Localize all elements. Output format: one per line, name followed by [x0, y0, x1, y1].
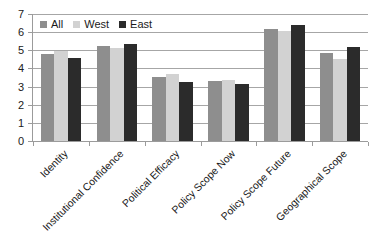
bar — [166, 74, 180, 141]
bar — [208, 81, 222, 141]
y-axis-tick-label: 5 — [18, 45, 24, 56]
y-axis-tick-label: 7 — [18, 9, 24, 20]
bar — [291, 25, 305, 141]
bar — [347, 47, 361, 141]
y-axis-tick-label: 0 — [18, 136, 24, 147]
plot-area — [33, 14, 368, 141]
bar — [97, 46, 111, 141]
y-axis-tick-label: 3 — [18, 82, 24, 93]
legend-item-east[interactable]: East — [119, 19, 152, 30]
bar — [54, 51, 68, 141]
legend-item-label: East — [130, 19, 152, 30]
legend-item-label: All — [51, 19, 63, 30]
legend-item-label: West — [84, 19, 109, 30]
bar — [68, 58, 82, 141]
bar — [278, 31, 292, 141]
bar — [124, 44, 138, 141]
bar-group — [41, 14, 82, 141]
bar — [333, 59, 347, 141]
legend-swatch-icon — [73, 21, 80, 28]
x-axis-tick-mark — [368, 142, 369, 146]
grouped-bar-chart: 01234567 IdentityInstitutional Confidenc… — [0, 0, 376, 239]
y-axis-tick-label: 4 — [18, 63, 24, 74]
y-axis-tick-label: 6 — [18, 27, 24, 38]
x-axis-tick-mark — [201, 142, 202, 146]
gridline — [33, 32, 368, 33]
chart-legend: AllWestEast — [38, 18, 156, 31]
bar — [264, 29, 278, 141]
bar — [41, 54, 55, 141]
gridline — [33, 68, 368, 69]
y-axis-tick-label: 2 — [18, 100, 24, 111]
bar-group — [320, 14, 361, 141]
gridline — [33, 14, 368, 15]
gridline — [33, 123, 368, 124]
bar — [235, 84, 249, 141]
bar — [179, 82, 193, 141]
gridline — [33, 87, 368, 88]
bar — [152, 77, 166, 141]
x-axis-tick-mark — [145, 142, 146, 146]
legend-item-all[interactable]: All — [40, 19, 63, 30]
bar-group — [152, 14, 193, 141]
bar — [320, 53, 334, 141]
legend-item-west[interactable]: West — [73, 19, 109, 30]
x-axis-tick-mark — [89, 142, 90, 146]
y-axis-tick-label: 1 — [18, 118, 24, 129]
bar — [222, 80, 236, 141]
x-axis-category-label: Political Efficacy — [120, 148, 181, 209]
bar-group — [208, 14, 249, 141]
x-axis-tick-mark — [312, 142, 313, 146]
legend-swatch-icon — [40, 21, 47, 28]
bar — [110, 48, 124, 141]
bar-group — [264, 14, 305, 141]
gridline — [33, 105, 368, 106]
x-axis-tick-mark — [33, 142, 34, 146]
legend-swatch-icon — [119, 21, 126, 28]
x-axis-category-label: Identity — [38, 148, 70, 180]
x-axis-tick-mark — [256, 142, 257, 146]
gridline — [33, 50, 368, 51]
bar-group — [97, 14, 138, 141]
